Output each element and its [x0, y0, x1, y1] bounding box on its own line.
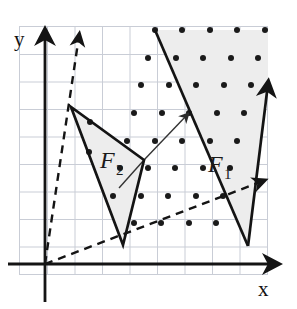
- lattice-cone-figure: y x F 2 F 1: [0, 0, 297, 309]
- region-f1-label: F: [207, 151, 223, 177]
- region-f1-subscript: 1: [224, 166, 232, 182]
- figure-container: y x F 2 F 1: [0, 0, 297, 309]
- x-axis-label: x: [258, 277, 269, 301]
- region-f2-label: F: [99, 147, 115, 173]
- y-axis-label: y: [14, 27, 25, 51]
- region-f2-subscript: 2: [116, 162, 124, 178]
- dashed-ray-lower: [45, 181, 263, 264]
- dashed-ray-upper: [45, 36, 79, 264]
